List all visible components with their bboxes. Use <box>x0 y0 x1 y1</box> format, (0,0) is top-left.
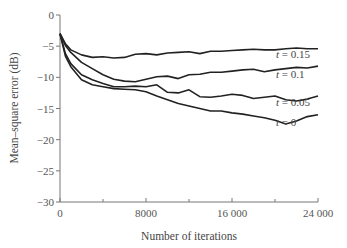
x-tick-label: 8000 <box>135 207 158 219</box>
x-axis-ticks: 0800016 00024 000 <box>57 198 333 219</box>
y-tick-label: −15 <box>37 103 55 115</box>
curve-label: t = 0 <box>276 116 297 128</box>
y-axis: 0−5−10−15−20−25−30 <box>37 9 60 208</box>
curve-label: t = 0.05 <box>276 96 311 108</box>
y-tick-label: −20 <box>37 134 55 146</box>
curve-labels: t = 0.15t = 0.1t = 0.05t = 0 <box>276 48 311 128</box>
x-tick-label: 24 000 <box>303 207 334 219</box>
x-tick-label: 16 000 <box>217 207 248 219</box>
y-tick-label: −10 <box>37 71 55 83</box>
y-tick-label: 0 <box>49 9 55 21</box>
x-tick-label: 0 <box>57 207 63 219</box>
y-tick-label: −30 <box>37 196 55 208</box>
y-axis-title: Mean–square error (dB) <box>8 52 21 163</box>
x-axis: 0800016 00024 000 <box>57 198 333 219</box>
x-axis-title: Number of iterations <box>141 230 237 242</box>
curve-label: t = 0.1 <box>276 68 305 80</box>
curve-label: t = 0.15 <box>276 48 311 60</box>
y-tick-label: −25 <box>37 165 55 177</box>
y-axis-ticks: 0−5−10−15−20−25−30 <box>37 9 60 208</box>
mse-line-chart: 0−5−10−15−20−25−30 0800016 00024 000 Num… <box>0 0 347 248</box>
y-tick-label: −5 <box>42 40 54 52</box>
